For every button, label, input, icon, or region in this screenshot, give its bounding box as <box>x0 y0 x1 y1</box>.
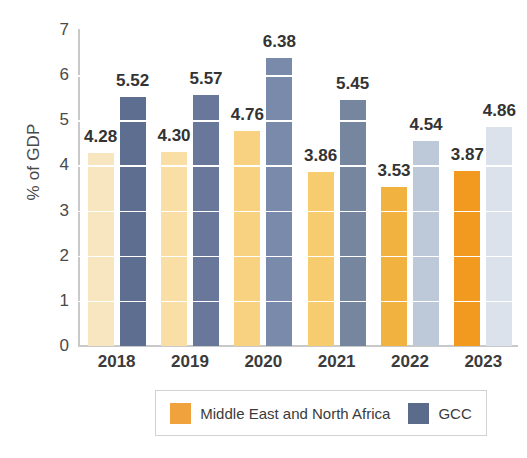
bar-value-mena-2019: 4.30 <box>157 126 190 146</box>
bar-mena-2021[interactable] <box>308 172 334 346</box>
legend-swatch-gcc <box>408 403 429 424</box>
x-axis-tick-2018: 2018 <box>98 352 136 372</box>
bar-gcc-2022[interactable] <box>413 141 439 346</box>
bar-value-mena-2023: 3.87 <box>451 145 484 165</box>
bar-gcc-2019[interactable] <box>193 95 219 346</box>
legend-label-gcc: GCC <box>438 405 471 422</box>
bar-group-2020: 4.766.38 <box>234 30 292 346</box>
legend-label-mena: Middle East and North Africa <box>200 405 390 422</box>
chart-legend: Middle East and North Africa GCC <box>155 390 487 436</box>
bar-value-mena-2018: 4.28 <box>84 127 117 147</box>
bar-value-mena-2020: 4.76 <box>231 105 264 125</box>
bar-gcc-2020[interactable] <box>266 58 292 346</box>
legend-swatch-mena <box>170 403 191 424</box>
bar-group-2022: 3.534.54 <box>381 30 439 346</box>
x-axis-tick-2019: 2019 <box>171 352 209 372</box>
x-axis-tick-2022: 2022 <box>391 352 429 372</box>
bar-gcc-2023[interactable] <box>486 127 512 346</box>
y-axis-tick-1: 1 <box>60 290 69 310</box>
bar-value-mena-2021: 3.86 <box>304 146 337 166</box>
legend-entry-mena[interactable]: Middle East and North Africa <box>170 403 390 424</box>
bar-group-2019: 4.305.57 <box>161 30 219 346</box>
bar-gcc-2021[interactable] <box>340 100 366 346</box>
bar-group-2023: 3.874.86 <box>454 30 512 346</box>
bar-value-gcc-2018: 5.52 <box>116 71 149 91</box>
bar-value-gcc-2022: 4.54 <box>409 115 442 135</box>
y-axis-tick-4: 4 <box>60 155 69 175</box>
bar-mena-2023[interactable] <box>454 171 480 346</box>
bar-mena-2020[interactable] <box>234 131 260 346</box>
y-axis-label: % of GDP <box>24 82 44 242</box>
x-axis-tick-2021: 2021 <box>318 352 356 372</box>
bar-value-mena-2022: 3.53 <box>377 161 410 181</box>
bar-group-2018: 4.285.52 <box>88 30 146 346</box>
bar-value-gcc-2019: 5.57 <box>189 69 222 89</box>
x-axis-tick-2020: 2020 <box>244 352 282 372</box>
bar-value-gcc-2023: 4.86 <box>483 101 516 121</box>
y-axis-tick-7: 7 <box>60 20 69 40</box>
bar-value-gcc-2021: 5.45 <box>336 74 369 94</box>
y-axis-tick-6: 6 <box>60 65 69 85</box>
y-axis-tick-3: 3 <box>60 200 69 220</box>
plot-area: 012345674.285.524.305.574.766.383.865.45… <box>78 30 518 346</box>
bar-mena-2019[interactable] <box>161 152 187 346</box>
bar-gcc-2018[interactable] <box>120 97 146 346</box>
bar-mena-2022[interactable] <box>381 187 407 346</box>
bar-group-2021: 3.865.45 <box>308 30 366 346</box>
bar-mena-2018[interactable] <box>88 153 114 346</box>
y-axis-tick-2: 2 <box>60 245 69 265</box>
bar-value-gcc-2020: 6.38 <box>263 32 296 52</box>
x-axis-tick-2023: 2023 <box>464 352 502 372</box>
y-axis-tick-0: 0 <box>60 336 69 356</box>
y-axis-tick-5: 5 <box>60 110 69 130</box>
legend-entry-gcc[interactable]: GCC <box>408 403 471 424</box>
